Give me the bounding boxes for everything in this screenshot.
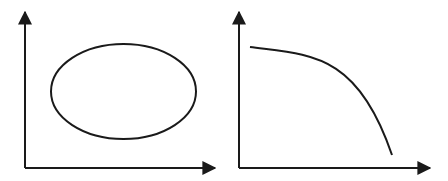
right-panel — [239, 12, 430, 168]
diagram-canvas — [0, 0, 448, 181]
left-panel — [25, 12, 215, 168]
concave-down-curve — [250, 47, 392, 155]
ellipse-curve — [51, 44, 196, 139]
